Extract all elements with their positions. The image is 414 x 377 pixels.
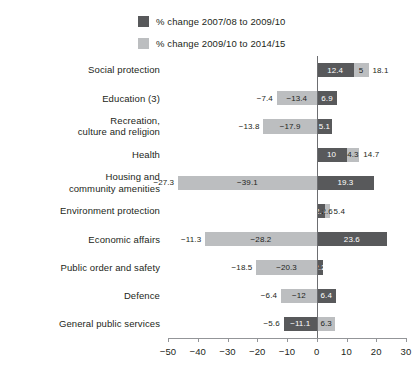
bar-group: 19.3−39.1−27.3 <box>168 176 406 190</box>
category-label: Health <box>0 141 160 169</box>
bar-track: −11.16.3−5.6 <box>168 310 406 338</box>
bar-chart: % change 2007/08 to 2009/10% change 2009… <box>0 0 414 377</box>
total-value-label: 18.1 <box>373 63 389 77</box>
bar-group: 6.4−12−6.4 <box>168 289 406 303</box>
bar-segment-light: 5 <box>354 63 369 77</box>
zero-axis-line <box>317 253 318 281</box>
bar-group: 23.6−28.2−11.3 <box>168 232 406 246</box>
bar-value-label: −11.1 <box>290 319 310 328</box>
bar-segment-light: −13.4 <box>277 91 317 105</box>
bar-group: 5.1−17.9−13.8 <box>168 119 406 133</box>
category-label: General public services <box>0 310 160 338</box>
legend-swatch-dark <box>138 16 149 27</box>
axis-tick-label: 30 <box>401 346 412 357</box>
category-label: Recreation,culture and religion <box>0 112 160 140</box>
total-value-label: −7.4 <box>251 91 273 105</box>
category-label: Social protection <box>0 56 160 84</box>
total-value-label: 14.7 <box>363 148 379 162</box>
chart-row: Education (3)6.9−13.4−7.4 <box>0 84 414 112</box>
bar-value-label: 19.3 <box>337 178 353 187</box>
legend-label-light: % change 2009/10 to 2014/15 <box>156 38 285 49</box>
bar-value-label: −20.3 <box>276 263 297 272</box>
bar-track: 12.4518.1 <box>168 56 406 84</box>
bar-track: 2.2−20.3−18.5 <box>168 253 406 281</box>
bar-group: 104.314.7 <box>168 148 406 162</box>
total-value-label: −6.4 <box>255 289 277 303</box>
axis-tick <box>228 338 229 342</box>
axis-tick-label: −20 <box>249 346 266 357</box>
category-label: Housing andcommunity amenities <box>0 169 160 197</box>
bar-segment-light: −28.2 <box>205 232 317 246</box>
bar-segment-light: −39.1 <box>178 176 317 190</box>
axis-tick-label: 10 <box>341 346 352 357</box>
zero-axis-line <box>317 197 318 225</box>
axis-tick <box>406 338 407 342</box>
total-value-label: −13.8 <box>237 119 259 133</box>
chart-legend: % change 2007/08 to 2009/10% change 2009… <box>138 12 285 56</box>
bar-segment-dark: 12.4 <box>317 63 354 77</box>
zero-axis-line <box>317 56 318 84</box>
category-label: Education (3) <box>0 84 160 112</box>
bar-segment-light: 4.3 <box>347 148 360 162</box>
total-value-label: −18.5 <box>230 260 252 274</box>
axis-tick <box>376 338 377 342</box>
bar-track: 6.9−13.4−7.4 <box>168 84 406 112</box>
zero-axis-line <box>317 112 318 140</box>
total-value-label: −27.3 <box>152 176 174 190</box>
plot-area: Social protection12.4518.1Education (3)6… <box>0 56 414 338</box>
bar-segment-dark: 5.1 <box>317 119 332 133</box>
axis-tick-label: 0 <box>314 346 319 357</box>
bar-segment-dark: 6.4 <box>317 289 336 303</box>
bar-value-label: −39.1 <box>237 178 258 187</box>
bar-segment-light: 2.6 <box>325 204 330 218</box>
axis-tick <box>287 338 288 342</box>
axis-tick-label: −30 <box>219 346 236 357</box>
axis-tick-label: −40 <box>189 346 206 357</box>
bar-value-label: 5 <box>359 66 364 75</box>
bar-group: −11.16.3−5.6 <box>168 317 406 331</box>
bar-value-label: 6.3 <box>320 319 331 328</box>
legend-item-light: % change 2009/10 to 2014/15 <box>138 34 285 52</box>
chart-row: Defence6.4−12−6.4 <box>0 282 414 310</box>
axis-tick-label: −50 <box>160 346 177 357</box>
chart-row: Social protection12.4518.1 <box>0 56 414 84</box>
bar-value-label: −13.4 <box>286 94 307 103</box>
zero-axis-line <box>317 225 318 253</box>
bar-track: 5.1−17.9−13.8 <box>168 112 406 140</box>
bar-group: 2.2−20.3−18.5 <box>168 260 406 274</box>
bar-value-label: 4.3 <box>347 150 358 159</box>
chart-row: Recreation,culture and religion5.1−17.9−… <box>0 112 414 140</box>
axis-tick-label: 20 <box>371 346 382 357</box>
bar-segment-light: −20.3 <box>256 260 316 274</box>
bar-track: 104.314.7 <box>168 141 406 169</box>
axis-tick <box>347 338 348 342</box>
chart-row: Health104.314.7 <box>0 141 414 169</box>
bar-value-label: 5.1 <box>319 122 330 131</box>
x-axis: −50−40−30−20−100102030 <box>168 338 406 368</box>
chart-row: Economic affairs23.6−28.2−11.3 <box>0 225 414 253</box>
zero-axis-line <box>317 141 318 169</box>
category-label: Public order and safety <box>0 253 160 281</box>
total-value-label: −11.3 <box>179 232 201 246</box>
bar-value-label: 6.9 <box>321 94 332 103</box>
zero-axis-line <box>317 84 318 112</box>
chart-row: Housing andcommunity amenities19.3−39.1−… <box>0 169 414 197</box>
zero-axis-line <box>317 310 318 338</box>
axis-tick <box>198 338 199 342</box>
chart-row: Public order and safety2.2−20.3−18.5 <box>0 253 414 281</box>
bar-track: 19.3−39.1−27.3 <box>168 169 406 197</box>
bar-value-label: 10 <box>327 150 336 159</box>
total-value-label: 5.4 <box>334 204 345 218</box>
bar-track: 6.4−12−6.4 <box>168 282 406 310</box>
bar-segment-dark: 23.6 <box>317 232 387 246</box>
category-label: Defence <box>0 282 160 310</box>
zero-axis-line <box>317 169 318 197</box>
bar-group: 6.9−13.4−7.4 <box>168 91 406 105</box>
bar-value-label: −17.9 <box>280 122 301 131</box>
bar-value-label: 12.4 <box>327 66 343 75</box>
axis-tick <box>168 338 169 342</box>
bar-segment-dark: −11.1 <box>284 317 317 331</box>
legend-swatch-light <box>138 38 149 49</box>
bar-group: 12.4518.1 <box>168 63 406 77</box>
category-label: Economic affairs <box>0 225 160 253</box>
